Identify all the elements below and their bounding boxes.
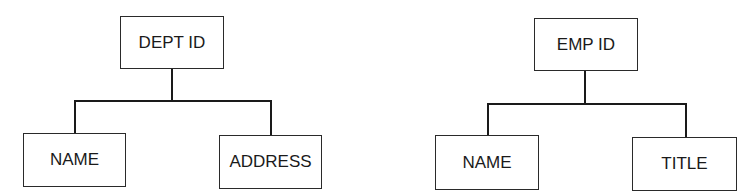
dept-address-node: ADDRESS: [219, 135, 322, 189]
dept-branch-bar: [74, 100, 272, 102]
emp-right-stem: [685, 103, 687, 138]
emp-title-node: TITLE: [632, 137, 737, 191]
dept-left-stem: [74, 100, 76, 134]
dept-root-stem: [171, 69, 173, 102]
emp-branch-bar: [487, 103, 687, 105]
dept-id-node: DEPT ID: [120, 16, 224, 69]
emp-id-node: EMP ID: [534, 18, 638, 71]
emp-left-stem: [487, 103, 489, 136]
dept-right-stem: [270, 100, 272, 136]
diagram-canvas: DEPT ID NAME ADDRESS EMP ID NAME TITLE: [0, 0, 753, 194]
emp-root-stem: [584, 71, 586, 104]
dept-name-node: NAME: [23, 133, 126, 187]
emp-name-node: NAME: [435, 135, 539, 190]
